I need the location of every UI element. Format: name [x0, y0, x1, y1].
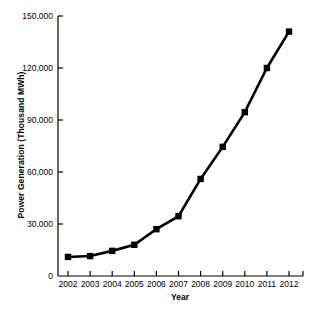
series-line	[68, 32, 289, 257]
x-axis-tick-labels: 2002200320042005200620072008200920102011…	[0, 279, 318, 293]
chart-container: Power Generation (Thousand MWh) 030,0006…	[0, 0, 318, 317]
x-axis-title: Year	[55, 292, 305, 302]
data-point-marker	[220, 144, 226, 150]
data-point-marker	[175, 213, 181, 219]
data-point-marker	[242, 109, 248, 115]
axes	[58, 16, 303, 276]
data-point-marker	[286, 28, 292, 34]
data-point-marker	[109, 248, 115, 254]
data-series	[65, 28, 292, 260]
plot-area	[0, 0, 318, 317]
x-axis-tick-label: 2012	[272, 279, 306, 290]
data-point-marker	[131, 242, 137, 248]
data-point-marker	[65, 254, 71, 260]
data-point-marker	[264, 65, 270, 71]
data-point-marker	[197, 176, 203, 182]
axis-ticks	[58, 16, 303, 276]
data-point-marker	[153, 226, 159, 232]
data-point-marker	[87, 253, 93, 259]
